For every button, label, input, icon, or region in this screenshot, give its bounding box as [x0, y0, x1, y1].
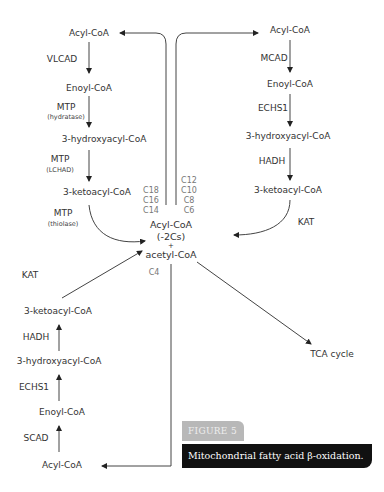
figure-caption: Mitochondrial fatty acid β-oxidation.	[182, 444, 372, 468]
left-enoyl-coa: Enoyl-CoA	[66, 84, 112, 93]
left-acyl-coa: Acyl-CoA	[69, 29, 109, 38]
center-acetyl-coa: acetyl-CoA	[145, 249, 196, 261]
bottom-3-ketoacyl-coa: 3-ketoacyl-CoA	[24, 307, 92, 316]
enzyme-vlcad: VLCAD	[47, 55, 78, 64]
figure-tab: FIGURE 5	[182, 421, 244, 441]
enzyme-mtp-lchad-sub: (LCHAD)	[46, 167, 74, 174]
enzyme-mtp-thiolase: MTP	[54, 209, 73, 218]
enzyme-mtp-thiolase-sub: (thiolase)	[48, 221, 79, 228]
right-acyl-coa: Acyl-CoA	[270, 26, 310, 35]
center-acyl-coa: Acyl-CoA	[145, 219, 196, 231]
bottom-3-hydroxyacyl-coa: 3-hydroxyacyl-CoA	[17, 357, 102, 366]
right-3-hydroxyacyl-coa: 3-hydroxyacyl-CoA	[246, 132, 331, 141]
chain-c4: C4	[149, 269, 160, 277]
left-3-hydroxyacyl-coa: 3-hydroxyacyl-CoA	[62, 135, 147, 144]
enzyme-mtp-hydratase: MTP	[57, 103, 76, 112]
center-node: Acyl-CoA (-2Cs) + acetyl-CoA	[145, 219, 196, 261]
enzyme-mcad: MCAD	[260, 54, 287, 63]
chain-c8: C8	[181, 196, 197, 206]
chain-lengths-long: C18 C16 C14	[143, 186, 159, 216]
bottom-enoyl-coa: Enoyl-CoA	[39, 408, 85, 417]
chain-c12: C12	[181, 176, 197, 186]
chain-c6: C6	[181, 206, 197, 216]
bottom-acyl-coa: Acyl-CoA	[42, 461, 82, 470]
enzyme-kat-bottom: KAT	[22, 271, 39, 280]
enzyme-mtp-hydratase-sub: (hydratase)	[47, 114, 85, 121]
enzyme-kat-right: KAT	[298, 218, 315, 227]
chain-c10: C10	[181, 186, 197, 196]
enzyme-mtp-lchad: MTP	[51, 155, 70, 164]
chain-c18: C18	[143, 186, 159, 196]
enzyme-hadh-bottom: HADH	[23, 333, 50, 342]
right-enoyl-coa: Enoyl-CoA	[267, 80, 313, 89]
enzyme-hadh: HADH	[259, 157, 286, 166]
tca-cycle: TCA cycle	[310, 350, 354, 359]
right-3-ketoacyl-coa: 3-ketoacyl-CoA	[254, 186, 322, 195]
enzyme-echs1: ECHS1	[258, 104, 288, 113]
left-3-ketoacyl-coa: 3-ketoacyl-CoA	[63, 188, 131, 197]
enzyme-echs1-bottom: ECHS1	[19, 383, 49, 392]
chain-lengths-medium: C12 C10 C8 C6	[181, 176, 197, 216]
chain-c14: C14	[143, 206, 159, 216]
chain-c16: C16	[143, 196, 159, 206]
enzyme-scad: SCAD	[23, 434, 48, 443]
